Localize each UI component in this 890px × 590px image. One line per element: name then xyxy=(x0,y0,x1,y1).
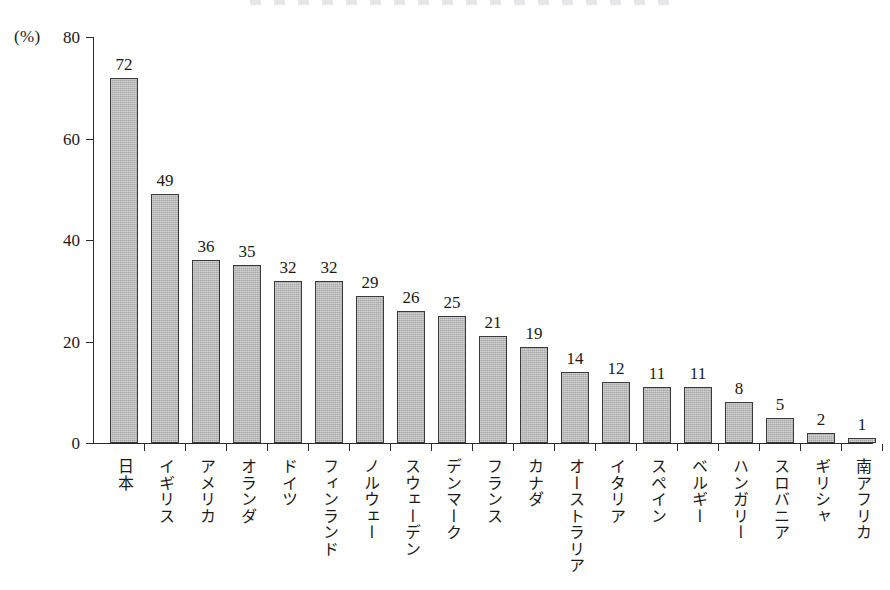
bar xyxy=(110,78,138,443)
bar xyxy=(602,382,630,443)
x-axis-category-label: オーストラリア xyxy=(567,458,583,574)
x-axis-category-label: フランス xyxy=(485,458,501,524)
x-axis-tick xyxy=(718,444,719,451)
bar-value-label: 49 xyxy=(140,172,190,189)
y-axis-tick-label: 80 xyxy=(14,29,80,46)
x-axis-category-label: アメリカ xyxy=(198,458,214,524)
x-axis-tick xyxy=(636,444,637,451)
x-axis-tick xyxy=(759,444,760,451)
x-axis-tick xyxy=(267,444,268,451)
x-axis-tick xyxy=(472,444,473,451)
x-axis-category-label: 南アフリカ xyxy=(854,458,870,541)
y-axis-tick-label: 0 xyxy=(14,435,80,452)
x-axis-category-label: 日本 xyxy=(116,458,132,491)
bar xyxy=(561,372,589,443)
x-axis-category-label: ベルギー xyxy=(690,458,706,524)
x-axis-tick xyxy=(841,444,842,451)
bar-chart: (%) 020406080 72493635323229262521191412… xyxy=(0,0,890,590)
x-axis-category-label: フィンランド xyxy=(321,458,337,557)
bar-value-label: 25 xyxy=(427,294,477,311)
bar xyxy=(233,265,261,443)
x-axis-tick xyxy=(431,444,432,451)
bar xyxy=(807,433,835,443)
bar xyxy=(520,347,548,443)
bar xyxy=(397,311,425,443)
x-axis-tick xyxy=(800,444,801,451)
bar xyxy=(274,281,302,443)
x-axis-category-label: スペイン xyxy=(649,458,665,524)
y-axis-tick-label: 20 xyxy=(14,334,80,351)
bar xyxy=(192,260,220,443)
bar xyxy=(643,387,671,443)
bar xyxy=(725,402,753,443)
x-axis-category-label: イタリア xyxy=(608,458,624,524)
x-axis-tick xyxy=(513,444,514,451)
x-axis-category-label: イギリス xyxy=(157,458,173,524)
y-axis-tick-label: 40 xyxy=(14,232,80,249)
x-axis-category-label: スウェーデン xyxy=(403,458,419,557)
x-axis-category-label: ギリシャ xyxy=(813,458,829,524)
bar xyxy=(684,387,712,443)
x-axis-tick xyxy=(882,444,883,451)
bar xyxy=(315,281,343,443)
y-axis-tick xyxy=(86,443,94,444)
x-axis-tick xyxy=(144,444,145,451)
x-axis-category-label: デンマーク xyxy=(444,458,460,541)
scan-artifact xyxy=(250,0,670,5)
x-axis-tick xyxy=(595,444,596,451)
bar-value-label: 72 xyxy=(99,56,149,73)
x-axis-category-label: スロバニア xyxy=(772,458,788,541)
bar-value-label: 19 xyxy=(509,325,559,342)
bar-value-label: 1 xyxy=(837,416,887,433)
y-axis-tick-label: 60 xyxy=(14,131,80,148)
bar xyxy=(438,316,466,443)
x-axis-category-label: オランダ xyxy=(239,458,255,524)
y-axis-tick xyxy=(86,342,94,343)
bar xyxy=(766,418,794,443)
y-axis-tick xyxy=(86,139,94,140)
x-axis-category-label: ハンガリー xyxy=(731,458,747,541)
bar xyxy=(479,336,507,443)
x-axis-tick xyxy=(308,444,309,451)
x-axis-line xyxy=(93,443,873,444)
x-axis-tick xyxy=(677,444,678,451)
x-axis-tick xyxy=(349,444,350,451)
x-axis-tick xyxy=(185,444,186,451)
bar xyxy=(848,438,876,443)
y-axis-tick xyxy=(86,240,94,241)
x-axis-category-label: ドイツ xyxy=(280,458,296,508)
y-axis-tick xyxy=(86,37,94,38)
bar xyxy=(151,194,179,443)
x-axis-tick xyxy=(226,444,227,451)
x-axis-category-label: ノルウェー xyxy=(362,458,378,541)
bar xyxy=(356,296,384,443)
x-axis-tick xyxy=(390,444,391,451)
x-axis-category-label: カナダ xyxy=(526,458,542,508)
x-axis-tick xyxy=(554,444,555,451)
